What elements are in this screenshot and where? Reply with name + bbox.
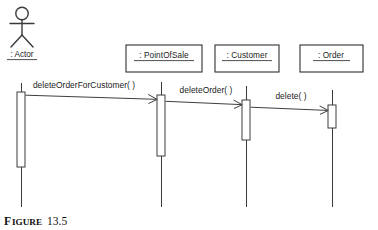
- figure-caption-initial: F: [4, 215, 11, 227]
- participant-label-pointofsale: : PointOfSale: [139, 51, 189, 60]
- actor-stick-figure: [10, 7, 34, 47]
- figure-caption: F IGURE 13.5: [4, 215, 67, 227]
- activation-bar-actor: [17, 92, 25, 167]
- actor-left-leg-line: [11, 35, 22, 47]
- figure-caption-number: 13.5: [47, 215, 67, 227]
- message-delete-order[interactable]: deleteOrder( ): [166, 85, 243, 108]
- participant-order[interactable]: : Order: [300, 45, 363, 72]
- actor-label: : Actor: [10, 50, 33, 59]
- participant-label-customer: : Customer: [226, 51, 267, 60]
- message-arrow-stem-3: [251, 107, 328, 110]
- figure-caption-word: IGURE: [12, 217, 42, 227]
- activation-bar-customer: [242, 100, 250, 140]
- participant-customer[interactable]: : Customer: [215, 45, 279, 72]
- actor-label-group: : Actor: [7, 50, 37, 60]
- message-delete-order-for-customer[interactable]: deleteOrderForCustomer( ): [26, 80, 158, 103]
- message-arrow-stem-1: [26, 95, 157, 99]
- message-label-2: deleteOrder( ): [180, 85, 233, 95]
- sequence-diagram-canvas: : Actor : PointOfSale : Customer : Order: [0, 0, 378, 230]
- participant-pointofsale[interactable]: : PointOfSale: [126, 45, 202, 72]
- figure-container: : Actor : PointOfSale : Customer : Order: [0, 0, 378, 230]
- actor-right-leg-line: [22, 35, 33, 47]
- participant-label-order: : Order: [318, 51, 344, 60]
- activation-bar-pointofsale: [157, 95, 165, 156]
- activation-bar-order: [328, 105, 336, 128]
- message-arrow-stem-2: [166, 101, 242, 104]
- message-label-3: delete( ): [275, 91, 306, 101]
- actor-head-icon: [16, 7, 28, 19]
- message-label-1: deleteOrderForCustomer( ): [33, 80, 135, 90]
- message-delete[interactable]: delete( ): [251, 91, 329, 114]
